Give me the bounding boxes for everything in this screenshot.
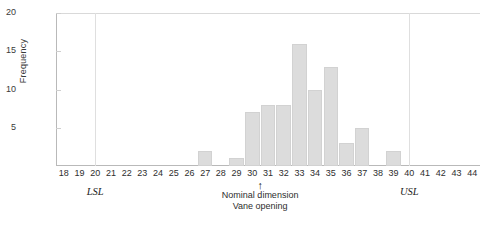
x-tick-label: 44 xyxy=(460,168,484,178)
y-tick-label: 20 xyxy=(0,7,16,17)
histogram-bar xyxy=(355,128,369,166)
lsl-label: LSL xyxy=(65,186,125,197)
histogram-bar xyxy=(276,105,290,166)
histogram-bar xyxy=(308,90,322,167)
y-axis-label: Frequency xyxy=(18,11,28,111)
usl-label: USL xyxy=(379,186,439,197)
histogram-bar xyxy=(324,67,338,166)
histogram-bar xyxy=(229,158,243,166)
usl-spec-line xyxy=(409,13,410,166)
nominal-dimension-caption: Nominal dimensionVane opening xyxy=(170,190,350,212)
histogram-bar xyxy=(339,143,353,166)
x-axis-ticks: 1819202122232425262728293031323334353637… xyxy=(56,168,480,182)
histogram-bar xyxy=(292,44,306,166)
histogram-bar xyxy=(261,105,275,166)
y-tick-label: 10 xyxy=(0,84,16,94)
nominal-caption-line1: Nominal dimension xyxy=(170,190,350,201)
lsl-spec-line xyxy=(95,13,96,166)
y-tick-label: 15 xyxy=(0,45,16,55)
histogram-bar xyxy=(386,151,400,166)
histogram-bar xyxy=(245,112,259,166)
histogram-bar xyxy=(198,151,212,166)
nominal-caption-line2: Vane opening xyxy=(170,201,350,212)
y-tick-label: 5 xyxy=(0,122,16,132)
bars-container xyxy=(56,13,480,166)
histogram-figure: Frequency 5101520 1819202122232425262728… xyxy=(0,0,498,226)
nominal-arrow-icon: ↑ xyxy=(255,181,265,189)
